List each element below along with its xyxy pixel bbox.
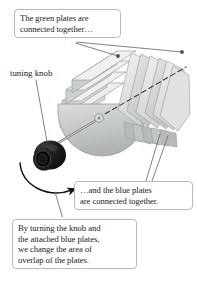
- tuning-knob-label: tuning knob: [10, 68, 52, 79]
- callout-turn-line-3: we change the area of: [18, 244, 132, 255]
- callout-blue-line-1: …and the blue plates: [80, 185, 188, 196]
- tuning-knob[interactable]: [33, 141, 66, 171]
- callout-blue-plates: …and the blue plates are connected toget…: [74, 181, 193, 210]
- callout-turn-line-1: By turning the knob and: [18, 223, 132, 234]
- figure-canvas: The green plates are connected together……: [0, 0, 197, 285]
- callout-green-line-1: The green plates are: [20, 13, 116, 24]
- callout-green-line-2: connected together…: [20, 24, 116, 35]
- callout-turning-knob: By turning the knob and the attached blu…: [12, 219, 137, 269]
- callout-turn-line-2: the attached blue plates,: [18, 234, 132, 245]
- callout-turn-line-4: overlap of the plates.: [18, 255, 132, 266]
- callout-green-plates: The green plates are connected together…: [14, 9, 121, 38]
- callout-blue-line-2: are connected together.: [80, 196, 188, 207]
